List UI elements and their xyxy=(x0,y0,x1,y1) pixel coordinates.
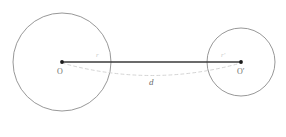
right-radius-label: r′ xyxy=(221,52,225,59)
distance-arc xyxy=(62,63,241,76)
left-radius-label: r xyxy=(96,52,99,59)
right-center-label: O′ xyxy=(237,68,245,76)
distance-label: d xyxy=(149,78,154,87)
right-center-point xyxy=(239,60,243,64)
left-center-label: O xyxy=(57,68,63,76)
left-center-point xyxy=(60,60,64,64)
geometry-figure: O O′ r r′ d xyxy=(0,0,286,137)
